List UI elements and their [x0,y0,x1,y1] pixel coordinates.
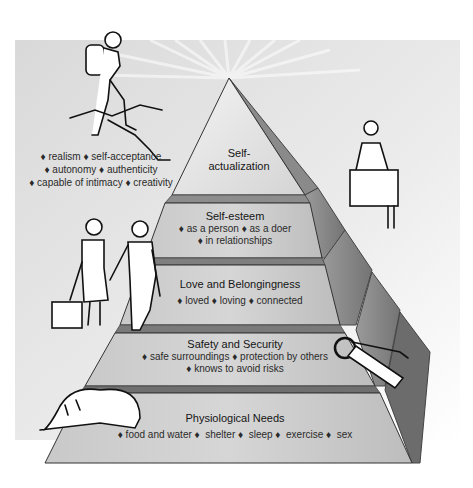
tier-items-line-2: ♦ in relationships [150,235,320,247]
traits-line-2: ♦ autonomy ♦ authenticity [22,163,180,176]
tier-title: Self-esteem [150,210,320,223]
tier-self-esteem-label: Self-esteem ♦ as a person ♦ as a doer ♦ … [150,210,320,247]
traits-line-3: ♦ capable of intimacy ♦ creativity [22,176,180,189]
tier-items-line-2: ♦ knows to avoid risks [110,363,360,375]
separator-band-1 [165,195,310,203]
tier-love-belongingness-label: Love and Belongingness ♦ loved ♦ loving … [140,278,340,307]
tier-title: Safety and Security [110,338,360,351]
tier-safety-security-label: Safety and Security ♦ safe surroundings … [110,338,360,375]
tier-items-line-1: ♦ loved ♦ loving ♦ connected [140,295,340,307]
tier-title: Physiological Needs [90,412,380,425]
tier-title: Self- [179,147,299,160]
tier-items-line-1: ♦ safe surroundings ♦ protection by othe… [110,351,360,363]
tier-physiological-needs-label: Physiological Needs ♦ food and water ♦ s… [90,412,380,441]
maslow-pyramid-diagram: ♦ realism ♦ self-acceptance ♦ autonomy ♦… [0,0,473,488]
tier-items-line-1: ♦ food and water ♦ shelter ♦ sleep ♦ exe… [90,429,380,441]
tier-items-line-1: ♦ as a person ♦ as a doer [150,223,320,235]
tier-title-line2: actualization [179,160,299,173]
tier-self-actualization-label: Self- actualization [179,147,299,173]
separator-band-2 [142,258,325,265]
traits-line-1: ♦ realism ♦ self-acceptance [22,150,180,163]
tier-title: Love and Belongingness [140,278,340,291]
separator-band-3 [115,325,345,333]
self-actualization-traits: ♦ realism ♦ self-acceptance ♦ autonomy ♦… [22,150,180,189]
